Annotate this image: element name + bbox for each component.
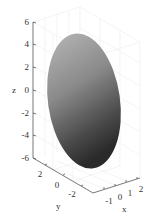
- svg-text:0: 0: [55, 180, 60, 190]
- x-axis-label: x: [122, 204, 127, 214]
- y-tick-labels: 2 0 -2: [38, 169, 76, 199]
- z-tick-labels: 6 4 2 0 -2 -4 -6: [22, 17, 30, 163]
- z-axis-label: z: [12, 85, 16, 95]
- svg-text:6: 6: [25, 17, 30, 27]
- svg-text:-6: -6: [22, 153, 30, 163]
- svg-text:-2: -2: [22, 108, 30, 118]
- svg-text:-1: -1: [105, 196, 113, 206]
- svg-text:-4: -4: [22, 130, 30, 140]
- y-axis-label: y: [56, 201, 61, 211]
- svg-text:2: 2: [38, 169, 43, 179]
- ellipsoid-surface: [39, 29, 129, 174]
- svg-text:4: 4: [25, 39, 30, 49]
- svg-text:1: 1: [128, 188, 133, 198]
- svg-text:-2: -2: [68, 189, 76, 199]
- svg-text:2: 2: [25, 62, 30, 72]
- ellipsoid-plot: 6 4 2 0 -2 -4 -6 z 2 0 -2 y -1 0 1 2 x: [0, 0, 155, 220]
- svg-text:0: 0: [118, 192, 123, 202]
- svg-text:0: 0: [25, 85, 30, 95]
- svg-text:2: 2: [139, 184, 144, 194]
- x-axis-line: [93, 178, 140, 193]
